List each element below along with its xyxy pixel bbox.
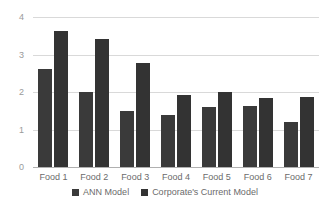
legend-item-label: ANN Model xyxy=(83,188,129,197)
x-axis-tick-label: Food 5 xyxy=(196,169,237,185)
y-axis: 01234 xyxy=(0,17,30,167)
chart-legend: ANN ModelCorporate's Current Model xyxy=(0,188,330,197)
bar[interactable] xyxy=(218,92,232,167)
bar-group xyxy=(74,17,115,167)
y-axis-tick-label: 0 xyxy=(19,163,24,172)
bar-group xyxy=(237,17,278,167)
bar[interactable] xyxy=(38,69,52,167)
bar-chart: 01234 Food 1Food 2Food 3Food 4Food 5Food… xyxy=(0,0,330,208)
bar[interactable] xyxy=(284,122,298,167)
bar[interactable] xyxy=(202,107,216,167)
legend-item[interactable]: Corporate's Current Model xyxy=(141,188,258,197)
legend-item[interactable]: ANN Model xyxy=(72,188,129,197)
y-axis-tick-label: 3 xyxy=(19,50,24,59)
x-axis-tick-label: Food 2 xyxy=(74,169,115,185)
bar-group xyxy=(115,17,156,167)
bar[interactable] xyxy=(300,97,314,167)
x-axis: Food 1Food 2Food 3Food 4Food 5Food 6Food… xyxy=(33,169,319,185)
bar-group xyxy=(33,17,74,167)
bar[interactable] xyxy=(54,31,68,167)
bar[interactable] xyxy=(79,92,93,167)
bar[interactable] xyxy=(177,95,191,167)
bar[interactable] xyxy=(95,39,109,167)
bar-group xyxy=(156,17,197,167)
axis-baseline xyxy=(33,167,319,168)
legend-swatch-icon xyxy=(72,189,79,196)
bar[interactable] xyxy=(243,106,257,167)
y-axis-tick-label: 2 xyxy=(19,88,24,97)
x-axis-tick-label: Food 6 xyxy=(237,169,278,185)
bar[interactable] xyxy=(259,98,273,167)
bar[interactable] xyxy=(136,63,150,167)
x-axis-tick-label: Food 1 xyxy=(33,169,74,185)
y-axis-tick-label: 1 xyxy=(19,125,24,134)
bar-group xyxy=(196,17,237,167)
x-axis-tick-label: Food 3 xyxy=(115,169,156,185)
x-axis-tick-label: Food 7 xyxy=(278,169,319,185)
y-axis-tick-label: 4 xyxy=(19,13,24,22)
legend-item-label: Corporate's Current Model xyxy=(152,188,258,197)
bar[interactable] xyxy=(120,111,134,167)
bar-group xyxy=(278,17,319,167)
legend-swatch-icon xyxy=(141,189,148,196)
x-axis-tick-label: Food 4 xyxy=(156,169,197,185)
bars-layer xyxy=(33,17,319,167)
bar[interactable] xyxy=(161,115,175,168)
